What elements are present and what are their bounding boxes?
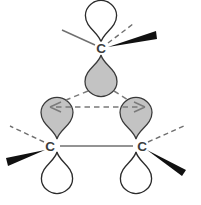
- atom-c-top-text: C: [96, 41, 106, 56]
- bond-right-upper-dashed: [148, 125, 186, 142]
- atom-c-bottom-left-text: C: [45, 139, 55, 154]
- atom-label-c-bottom-left: C: [44, 139, 57, 154]
- atom-label-c-top: C: [95, 41, 108, 56]
- atom-label-c-bottom-right: C: [136, 139, 149, 154]
- orbital-p-right-open: [120, 152, 151, 194]
- diagram-canvas: C C C: [0, 0, 201, 205]
- orbital-p-top-open: [85, 0, 116, 42]
- bond-top-right-wedge: [108, 31, 157, 47]
- overlap-arrow-top-right: [114, 91, 128, 100]
- atom-c-bottom-right-text: C: [137, 139, 147, 154]
- bond-left-lower-wedge: [6, 150, 45, 166]
- bond-right-lower-wedge: [147, 150, 186, 176]
- orbital-p-left-open: [41, 152, 72, 194]
- orbital-overlap-diagram: C C C: [0, 0, 201, 205]
- overlap-arrow-top-left: [66, 91, 88, 100]
- bond-top-left-plain: [62, 30, 95, 45]
- orbital-p-top-shaded: [85, 55, 117, 97]
- bond-left-upper-dashed: [10, 126, 44, 142]
